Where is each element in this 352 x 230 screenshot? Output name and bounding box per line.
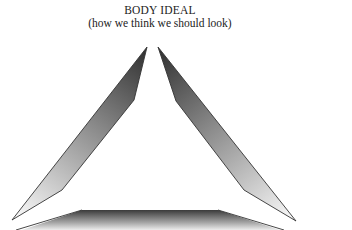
bottom-bar-shape (16, 210, 286, 230)
right-arrow-shape (158, 47, 296, 221)
body-ideal-triangle-diagram (0, 0, 352, 230)
left-arrow-shape (12, 47, 147, 220)
